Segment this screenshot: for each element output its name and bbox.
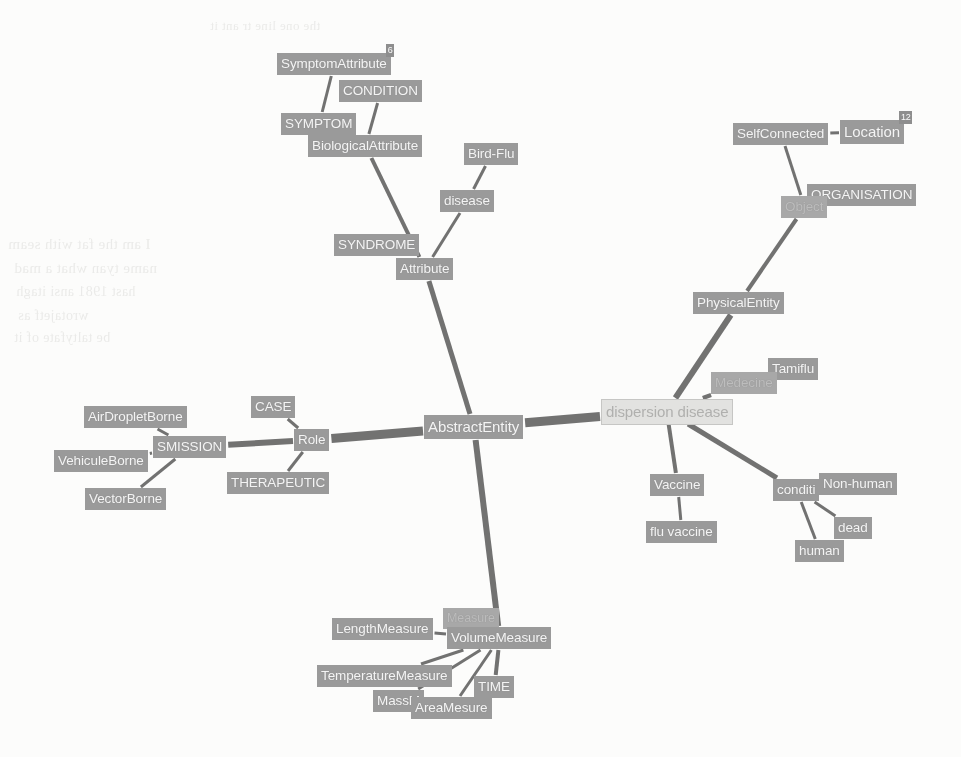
- graph-node-vaccine[interactable]: Vaccine: [650, 474, 704, 496]
- graph-edge-role-therapeutic: [288, 452, 303, 471]
- graph-edge-disease-birdflu: [474, 166, 486, 189]
- graph-node-lengthmeasure[interactable]: LengthMeasure: [332, 618, 433, 640]
- graph-node-dispersiondisease[interactable]: dispersion disease: [601, 399, 733, 425]
- watermark-text: hast 1981 ansi itagh: [16, 284, 136, 300]
- graph-edge-dispersiondisease-medecine: [703, 395, 711, 398]
- graph-node-nonhuman[interactable]: Non-human: [819, 473, 897, 495]
- graph-node-hiddenmeasure[interactable]: Measure: [443, 608, 499, 629]
- graph-canvas[interactable]: I am the fat with seamname tyan what a m…: [0, 0, 961, 757]
- graph-node-biologicalattribute[interactable]: BiologicalAttribute: [308, 135, 422, 157]
- graph-node-physicalentity[interactable]: PhysicalEntity: [693, 292, 784, 314]
- graph-node-badge-symptomattribute: 6: [386, 44, 395, 57]
- graph-node-fluvaccine[interactable]: flu vaccine: [646, 521, 717, 543]
- graph-edge-object-selfconnected: [785, 146, 801, 195]
- graph-edge-condition2-dead: [815, 502, 836, 516]
- graph-node-time[interactable]: TIME: [474, 676, 514, 698]
- graph-node-human[interactable]: human: [795, 540, 844, 562]
- graph-edge-condition2-human: [801, 502, 815, 539]
- graph-node-condition[interactable]: CONDITION: [339, 80, 422, 102]
- watermark-text: the one line tr ant it: [210, 18, 320, 34]
- graph-edge-abstractentity-attribute: [429, 281, 470, 414]
- watermark-text: name tyan what a mad: [14, 260, 157, 277]
- graph-node-vectorborne[interactable]: VectorBorne: [85, 488, 166, 510]
- graph-node-therapeutic[interactable]: THERAPEUTIC: [227, 472, 329, 494]
- graph-node-attribute[interactable]: Attribute: [396, 258, 453, 280]
- graph-edge-dispersiondisease-vaccine: [669, 424, 676, 473]
- graph-node-areamesure[interactable]: AreaMesure: [411, 697, 492, 719]
- graph-node-object[interactable]: Object: [781, 196, 827, 218]
- graph-edge-attribute-disease: [433, 213, 460, 257]
- watermark-text: be taltyfate of it: [14, 330, 110, 346]
- graph-edge-volumemeasure-temperaturemeasure: [421, 650, 463, 664]
- graph-node-syndrome[interactable]: SYNDROME: [334, 234, 419, 256]
- graph-edge-volumemeasure-lengthmeasure: [435, 633, 447, 634]
- watermark-text: wrotajetf as: [18, 308, 89, 324]
- graph-node-vehiculeborne[interactable]: VehiculeBorne: [54, 450, 148, 472]
- graph-node-location[interactable]: Location: [840, 120, 904, 144]
- graph-edge-abstractentity-dispersiondisease: [525, 417, 600, 423]
- graph-edge-abstractentity-role: [331, 431, 423, 438]
- graph-node-dead[interactable]: dead: [834, 517, 872, 539]
- graph-edge-biologicalattribute-condition: [369, 103, 378, 134]
- graph-node-symptom[interactable]: SYMPTOM: [281, 113, 356, 135]
- graph-edge-physicalentity-object: [747, 219, 796, 291]
- graph-edge-abstractentity-volumemeasure: [476, 440, 499, 626]
- graph-node-symptomattribute[interactable]: SymptomAttribute: [277, 53, 391, 75]
- graph-node-abstractentity[interactable]: AbstractEntity: [424, 415, 523, 439]
- graph-node-selfconnected[interactable]: SelfConnected: [733, 123, 828, 145]
- graph-node-airdropletborne[interactable]: AirDropletBorne: [84, 406, 187, 428]
- graph-edge-symptom-symptomattribute: [322, 76, 331, 112]
- graph-edge-role-transmission: [228, 441, 293, 445]
- graph-node-transmission[interactable]: SMISSION: [153, 436, 226, 458]
- graph-node-medecine[interactable]: Medecine: [711, 372, 777, 394]
- graph-node-badge-location: 12: [899, 111, 912, 124]
- graph-edge-transmission-airdropletborne: [158, 429, 169, 435]
- graph-node-temperaturemeasure[interactable]: TemperatureMeasure: [317, 665, 452, 687]
- graph-node-disease[interactable]: disease: [440, 190, 494, 212]
- watermark-text: I am the fat with seam: [8, 236, 151, 253]
- graph-node-condition2[interactable]: conditi: [773, 479, 819, 501]
- graph-edge-dispersiondisease-condition2: [688, 424, 777, 478]
- graph-node-role[interactable]: Role: [294, 429, 329, 451]
- graph-edge-role-case: [288, 419, 299, 428]
- graph-edge-volumemeasure-time: [496, 650, 499, 675]
- graph-node-birdflu[interactable]: Bird-Flu: [464, 143, 518, 165]
- graph-node-volumemeasure[interactable]: VolumeMeasure: [447, 627, 551, 649]
- graph-node-case[interactable]: CASE: [251, 396, 295, 418]
- graph-edge-vaccine-fluvaccine: [679, 497, 681, 520]
